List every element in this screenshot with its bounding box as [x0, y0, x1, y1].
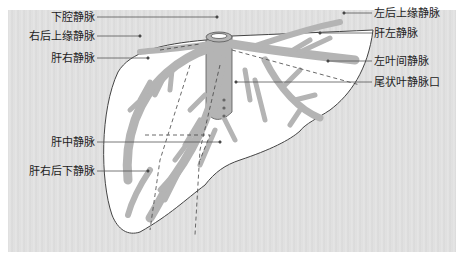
label-caudate-vein-orifice: 尾状叶静脉口 [374, 76, 440, 89]
label-inferior-vena-cava: 下腔静脉 [0, 11, 95, 24]
label-right-posterior-superior-vein: 右后上缘静脉 [0, 30, 95, 43]
label-right-posterior-inferior-vein: 肝右后下静脉 [0, 165, 95, 178]
label-right-hepatic-vein: 肝右静脉 [0, 52, 95, 65]
label-left-hepatic-vein: 肝左静脉 [374, 27, 418, 40]
label-middle-hepatic-vein: 肝中静脉 [0, 136, 95, 149]
label-left-posterior-superior-vein: 左后上缘静脉 [374, 7, 440, 20]
label-left-interlobar-vein: 左叶间静脉 [374, 55, 429, 68]
